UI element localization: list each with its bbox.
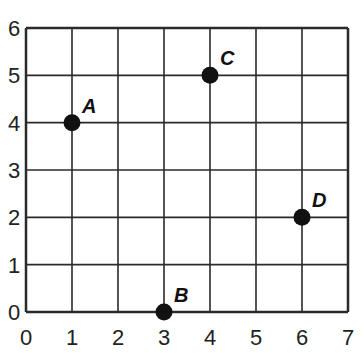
- x-tick-label: 6: [296, 325, 308, 350]
- y-tick-label: 2: [8, 205, 20, 230]
- y-tick-label: 1: [8, 253, 20, 278]
- grid-lines: [26, 28, 348, 312]
- coordinate-grid-chart: 01234567 0123456 ABCD: [0, 0, 364, 353]
- point-label: D: [312, 189, 326, 211]
- point-marker-icon: [294, 209, 311, 226]
- y-axis-ticks: 0123456: [8, 16, 20, 325]
- y-tick-label: 4: [8, 111, 20, 136]
- data-points: ABCD: [64, 47, 327, 320]
- x-axis-ticks: 01234567: [20, 325, 354, 350]
- point-label: C: [220, 47, 235, 69]
- x-tick-label: 5: [250, 325, 262, 350]
- x-tick-label: 0: [20, 325, 32, 350]
- x-tick-label: 2: [112, 325, 124, 350]
- x-tick-label: 1: [66, 325, 78, 350]
- point-label: A: [81, 95, 96, 117]
- point-marker-icon: [156, 304, 173, 321]
- point-marker-icon: [64, 114, 81, 131]
- point-label: B: [174, 284, 188, 306]
- y-tick-label: 0: [8, 300, 20, 325]
- point-a: A: [64, 95, 97, 131]
- y-tick-label: 3: [8, 158, 20, 183]
- x-tick-label: 7: [342, 325, 354, 350]
- x-tick-label: 3: [158, 325, 170, 350]
- point-b: B: [156, 284, 189, 321]
- y-tick-label: 6: [8, 16, 20, 41]
- point-marker-icon: [202, 67, 219, 84]
- point-d: D: [294, 189, 327, 226]
- point-c: C: [202, 47, 236, 84]
- y-tick-label: 5: [8, 63, 20, 88]
- x-tick-label: 4: [204, 325, 216, 350]
